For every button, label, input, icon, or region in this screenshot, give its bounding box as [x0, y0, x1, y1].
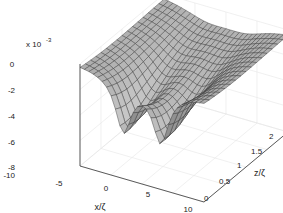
y-tick-label: 1	[237, 161, 242, 170]
x-axis-label: x/ζ	[95, 202, 106, 212]
y-tick-label: 0	[204, 194, 209, 203]
y-tick-label: 2	[269, 132, 274, 141]
z-tick-label: -2	[8, 86, 16, 95]
surface-plot: x 10 -3 0 -2 -4 -6 -8 -10 -5 0 5 10 0 0.…	[0, 0, 283, 213]
x-tick-label: -5	[55, 179, 63, 188]
z-multiplier-exponent: -3	[46, 37, 52, 43]
z-multiplier-label: x 10	[26, 40, 42, 49]
z-tick-label: -6	[8, 138, 16, 147]
y-axis-label: z/ζ	[254, 168, 265, 178]
z-tick-label: -4	[8, 112, 16, 121]
y-tick-label: 0.5	[219, 177, 231, 186]
z-tick-label: 0	[10, 60, 15, 69]
labels-overlay: x 10 -3 0 -2 -4 -6 -8 -10 -5 0 5 10 0 0.…	[0, 0, 283, 213]
y-tick-label: 1.5	[251, 147, 263, 156]
x-tick-label: -10	[3, 171, 15, 180]
x-tick-label: 0	[104, 184, 109, 193]
x-tick-label: 5	[146, 190, 151, 199]
x-tick-label: 10	[184, 205, 193, 213]
